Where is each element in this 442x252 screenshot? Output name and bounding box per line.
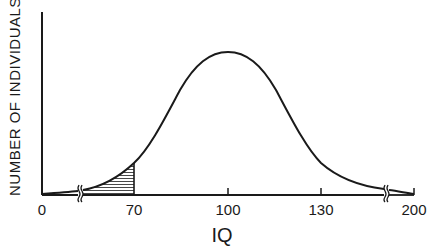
- axis-break-right: [384, 185, 389, 202]
- y-axis-label: NUMBER OF INDIVIDUALS: [6, 0, 23, 196]
- x-axis-label: IQ: [211, 224, 232, 246]
- x-tick-label: 70: [126, 201, 143, 218]
- x-tick-label: 130: [308, 201, 333, 218]
- curve-right-tail: [389, 190, 414, 194]
- shaded-region: [83, 163, 134, 195]
- normal-curve: [83, 52, 384, 190]
- x-tick-label: 0: [38, 201, 46, 218]
- x-tick-label: 200: [401, 201, 426, 218]
- bell-curve-chart: NUMBER OF INDIVIDUALS 0 70 100 130 200 I…: [0, 0, 442, 252]
- axis-break-left: [78, 185, 83, 202]
- x-tick-label: 100: [215, 201, 240, 218]
- curve-left-tail: [42, 191, 78, 194]
